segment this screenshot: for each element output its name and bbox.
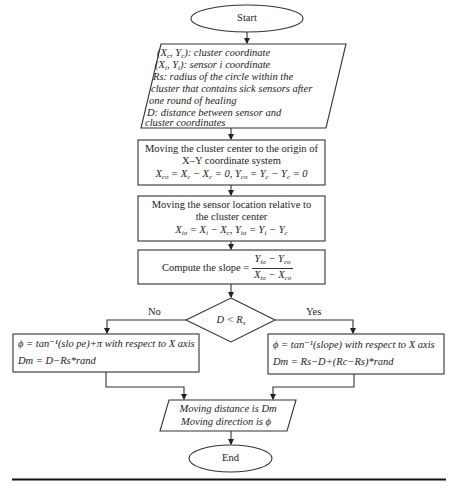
- input-line-rs: Rs: radius of the circle within the: [153, 71, 293, 84]
- input-line-d-cont: cluster coordinates: [145, 117, 225, 130]
- yes-branch-line1: ϕ = tan⁻¹(slope) with respect to X axis: [273, 339, 435, 352]
- step2-line1: Moving the sensor location relative to: [138, 199, 325, 212]
- step3-label: Compute the slope =: [162, 262, 249, 273]
- step2-line2: the cluster center: [138, 211, 325, 224]
- decision-condition: D < Rs: [196, 314, 266, 330]
- input-var: (X: [157, 47, 167, 58]
- slope-fraction: Yio − Yco Xio − Xco: [252, 253, 293, 284]
- output-line1: Moving distance is Dm: [162, 403, 294, 416]
- step1-line2: X–Y coordinate system: [138, 155, 325, 168]
- step3-content: Compute the slope = Yio − Yco Xio − Xco: [162, 253, 293, 284]
- input-line-rs-cont2: one round of healing: [149, 95, 236, 108]
- step1-line1: Moving the cluster center to the origin …: [138, 143, 325, 156]
- no-label: No: [148, 306, 161, 319]
- input-desc: ): sensor i coordinate: [180, 59, 270, 70]
- input-desc: ): cluster coordinate: [184, 47, 270, 58]
- step1-formula: Xco = Xc − Xc = 0, Yco = Yc − Yc = 0: [138, 168, 325, 184]
- slope-denominator: Xio − Xco: [252, 269, 293, 284]
- no-branch-line2: Dm = D−Rs*rand: [18, 355, 96, 368]
- input-var: (X: [155, 59, 165, 70]
- no-branch-line1: ϕ = tan⁻¹(slo pe)+π with respect to X ax…: [18, 338, 195, 351]
- input-var: , Y: [167, 59, 178, 70]
- slope-numerator: Yio − Yco: [252, 253, 293, 269]
- yes-label: Yes: [306, 306, 321, 319]
- start-label: Start: [191, 12, 303, 25]
- yes-branch-line2: Dm = Rs−D+(Rc−Rs)*rand: [273, 356, 394, 369]
- end-label: End: [189, 452, 272, 465]
- input-line-rs-cont: cluster that contains sick sensors after: [151, 83, 312, 96]
- input-var: , Y: [170, 47, 181, 58]
- output-line2: Moving direction is ϕ: [160, 416, 292, 429]
- step2-formula: Xio = Xi − Xc, Yio = Yi − Yc: [138, 224, 325, 240]
